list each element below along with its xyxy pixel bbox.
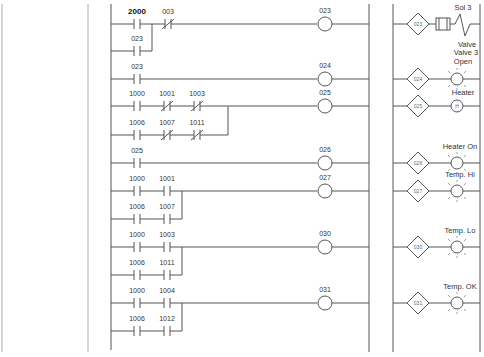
no-contact-label: 1003 (159, 231, 175, 238)
lamp-icon (451, 73, 463, 85)
lamp-ray (448, 309, 450, 311)
rung-026: 025026026Heater On (111, 142, 480, 174)
output-coil (318, 99, 332, 113)
lamp-icon (451, 297, 463, 309)
output-label-top: Valve 3 (454, 48, 478, 57)
output-address-label: 025 (414, 103, 423, 109)
output-address-label: 027 (414, 188, 423, 194)
lamp-ray (448, 183, 450, 185)
lamp-icon (451, 241, 463, 253)
output-label-top: Temp. OK (443, 282, 476, 291)
output-label-top: Temp. Lo (445, 226, 476, 235)
no-contact-label: 1006 (129, 315, 145, 322)
no-contact-label: 2000 (128, 7, 146, 16)
lamp-ray (464, 295, 466, 297)
lamp-ray (448, 197, 450, 199)
nc-contact-label: 1003 (189, 90, 205, 97)
lamp-ray (464, 85, 466, 87)
output-coil (318, 17, 332, 31)
output-address-label: 024 (414, 76, 423, 82)
rung-024: 023024024Valve 3Open (111, 48, 480, 90)
no-contact-label: 1004 (159, 287, 175, 294)
no-contact-label: 023 (131, 63, 143, 70)
coil-address-label: 026 (319, 146, 331, 153)
rung-030: 1000100310061011030030Temp. Lo (111, 226, 480, 280)
coil-address-label: 023 (319, 7, 331, 14)
no-contact-label: 1000 (129, 287, 145, 294)
output-label-top: Sol 3 (454, 3, 471, 12)
coil-address-label: 031 (319, 286, 331, 293)
output-label-top: Heater On (443, 142, 478, 151)
output-address-label: 030 (414, 244, 423, 250)
no-contact-label: 1006 (129, 119, 145, 126)
nc-contact-label: 1001 (159, 90, 175, 97)
output-coil (318, 240, 332, 254)
lamp-ray (448, 239, 450, 241)
output-address-label: 023 (414, 21, 423, 27)
rung-023: 2000003023023023Sol 3Valve (111, 3, 480, 56)
output-label-top: Temp. Hi (445, 170, 475, 179)
lamp-icon (451, 185, 463, 197)
no-contact-label: 1000 (129, 175, 145, 182)
no-contact-label: 1000 (129, 90, 145, 97)
lamp-ray (448, 85, 450, 87)
coil-address-label: 027 (319, 174, 331, 181)
output-coil (318, 184, 332, 198)
nc-contact-label: 1007 (159, 119, 175, 126)
no-contact-label: 023 (131, 35, 143, 42)
heater-glyph: H (455, 103, 459, 109)
output-label-top: Heater (452, 88, 475, 97)
lamp-ray (464, 239, 466, 241)
output-coil (318, 296, 332, 310)
solenoid-icon (436, 18, 450, 30)
lamp-ray (448, 71, 450, 73)
rung-031: 1000100410061012031031Temp. OK (111, 282, 480, 336)
nc-contact-label: 1011 (189, 119, 204, 126)
lamp-ray (448, 295, 450, 297)
no-contact-label: 1011 (159, 259, 174, 266)
lamp-ray (464, 309, 466, 311)
no-contact-label: 1006 (129, 259, 145, 266)
coil-address-label: 030 (319, 230, 331, 237)
lamp-ray (464, 253, 466, 255)
no-contact-label: 1012 (159, 315, 175, 322)
output-address-label: 031 (414, 300, 423, 306)
output-address-label: 026 (414, 160, 423, 166)
output-coil (318, 156, 332, 170)
output-coil (318, 72, 332, 86)
nc-contact-label: 003 (162, 8, 174, 15)
lamp-ray (448, 155, 450, 157)
lamp-icon (451, 157, 463, 169)
no-contact-label: 025 (131, 147, 143, 154)
lamp-ray (464, 183, 466, 185)
no-contact-label: 1000 (129, 231, 145, 238)
no-contact-label: 1007 (159, 203, 175, 210)
rung-025: 100010011003100610071011025025HHeater (111, 88, 480, 140)
ladder-diagram: 2000003023023023Sol 3Valve023024024Valve… (0, 0, 484, 357)
valve-spring-icon (450, 14, 480, 36)
lamp-ray (448, 253, 450, 255)
lamp-ray (464, 155, 466, 157)
coil-address-label: 025 (319, 89, 331, 96)
rung-027: 1000100110061007027027Temp. Hi (111, 170, 480, 224)
lamp-ray (464, 71, 466, 73)
no-contact-label: 1006 (129, 203, 145, 210)
no-contact-label: 1001 (159, 175, 175, 182)
lamp-ray (464, 197, 466, 199)
coil-address-label: 024 (319, 62, 331, 69)
power-rails (2, 4, 480, 352)
output-label-top-line2: Open (454, 57, 472, 66)
